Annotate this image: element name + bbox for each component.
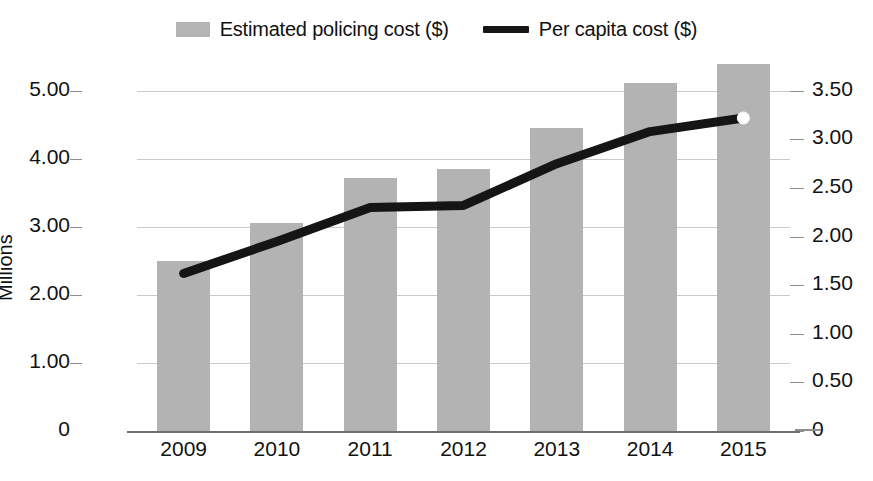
x-axis: 2009201020112012201320142015 bbox=[137, 437, 790, 477]
right-axis-tick-mark bbox=[790, 382, 804, 383]
x-axis-tick-label-2011: 2011 bbox=[324, 437, 417, 461]
right-axis-tick-label: 3.50 bbox=[812, 77, 853, 101]
left-axis-tick-label: 0 bbox=[8, 417, 70, 441]
right-axis-tick-mark bbox=[790, 188, 804, 189]
right-axis-tick-label: 0.50 bbox=[812, 368, 853, 392]
left-axis-tick-mark bbox=[70, 91, 82, 92]
right-axis-tick-label: 2.00 bbox=[812, 223, 853, 247]
left-axis-tick-label: 4.00 bbox=[8, 145, 70, 169]
per-capita-line bbox=[184, 118, 744, 274]
plot-area bbox=[137, 69, 790, 431]
legend-item-per-capita-cost: Per capita cost ($) bbox=[483, 18, 698, 41]
legend-label-per-capita-cost: Per capita cost ($) bbox=[539, 18, 698, 41]
left-axis-tick-mark bbox=[70, 227, 82, 228]
left-axis-tick-mark bbox=[70, 363, 82, 364]
right-axis-endcap bbox=[795, 429, 821, 431]
legend-label-estimated-policing-cost: Estimated policing cost ($) bbox=[220, 18, 449, 41]
right-axis-tick-mark bbox=[790, 91, 804, 92]
chart-legend: Estimated policing cost ($) Per capita c… bbox=[0, 18, 873, 41]
x-axis-tick-label-2015: 2015 bbox=[697, 437, 790, 461]
right-axis-tick-mark bbox=[790, 285, 804, 286]
x-axis-tick-label-2012: 2012 bbox=[417, 437, 510, 461]
right-axis-tick-label: 3.00 bbox=[812, 125, 853, 149]
x-axis-tick-label-2009: 2009 bbox=[137, 437, 230, 461]
left-axis-tick-label: 3.00 bbox=[8, 213, 70, 237]
right-axis-tick-label: 2.50 bbox=[812, 174, 853, 198]
legend-item-estimated-policing-cost: Estimated policing cost ($) bbox=[176, 18, 449, 41]
right-axis-tick-mark bbox=[790, 139, 804, 140]
x-axis-tick-label-2014: 2014 bbox=[603, 437, 696, 461]
left-axis-tick-label: 5.00 bbox=[8, 77, 70, 101]
bar-swatch-icon bbox=[176, 22, 210, 37]
left-axis-tick-label: 1.00 bbox=[8, 349, 70, 373]
right-axis: 3.503.002.502.001.501.000.500 bbox=[790, 69, 873, 431]
chart-container: Estimated policing cost ($) Per capita c… bbox=[0, 0, 873, 481]
line-series-svg bbox=[137, 69, 790, 431]
left-axis-tick-mark bbox=[70, 295, 82, 296]
left-axis-tick-label: 2.00 bbox=[8, 281, 70, 305]
line-end-marker bbox=[737, 112, 749, 124]
line-series bbox=[137, 69, 790, 431]
x-axis-baseline bbox=[127, 431, 800, 433]
left-axis: Millions 5.004.003.002.001.000 bbox=[0, 69, 70, 431]
x-axis-tick-label-2013: 2013 bbox=[510, 437, 603, 461]
right-axis-tick-label: 1.50 bbox=[812, 271, 853, 295]
left-axis-tick-mark bbox=[70, 159, 82, 160]
x-axis-tick-label-2010: 2010 bbox=[230, 437, 323, 461]
right-axis-tick-mark bbox=[790, 334, 804, 335]
right-axis-tick-mark bbox=[790, 237, 804, 238]
line-swatch-icon bbox=[483, 26, 529, 33]
right-axis-tick-label: 1.00 bbox=[812, 320, 853, 344]
